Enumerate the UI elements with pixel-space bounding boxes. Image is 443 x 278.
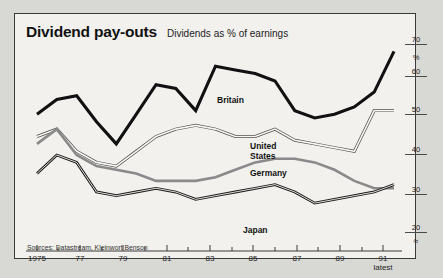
y-tick-30: 30 bbox=[405, 186, 427, 195]
y-tick-rule bbox=[405, 44, 427, 45]
chart-source: Sources: Datastream, Kleinwort Benson bbox=[27, 244, 148, 251]
screenshot-root: Dividend pay-outs Dividends as % of earn… bbox=[0, 0, 443, 278]
x-tick-91: 91 latest bbox=[373, 254, 392, 272]
y-tick-40: 40 bbox=[405, 146, 427, 155]
x-tick-85: 85 bbox=[249, 254, 258, 263]
x-tick-81: 81 bbox=[163, 254, 172, 263]
y-tick-rule bbox=[405, 154, 427, 155]
series-label-japan: Japan bbox=[243, 226, 268, 236]
y-tick-rule bbox=[405, 76, 427, 77]
x-axis-labels: 1975 77 79 81 83 85 87 89 91 latest bbox=[26, 254, 404, 276]
chart-figure: Dividend pay-outs Dividends as % of earn… bbox=[14, 13, 416, 259]
y-tick-rule bbox=[405, 114, 427, 115]
y-tick-rule bbox=[405, 194, 427, 195]
x-tick-91-year: 91 bbox=[379, 254, 388, 263]
series-label-united-states-line2: States bbox=[250, 152, 276, 162]
x-tick-87: 87 bbox=[293, 254, 302, 263]
x-tick-77: 77 bbox=[76, 254, 85, 263]
y-tick-20: 20 bbox=[405, 224, 427, 233]
chart-header: Dividend pay-outs Dividends as % of earn… bbox=[26, 23, 288, 41]
plot-area bbox=[26, 40, 402, 252]
series-label-germany: Germany bbox=[250, 169, 287, 179]
y-tick-rule bbox=[405, 232, 427, 233]
series-line-united-states-outline bbox=[37, 111, 394, 167]
y-axis-labels: 70 % 60 50 40 30 20 bbox=[405, 40, 431, 255]
line-chart-svg bbox=[26, 40, 402, 252]
series-layer bbox=[37, 51, 394, 203]
series-label-britain: Britain bbox=[217, 96, 244, 106]
x-tick-79: 79 bbox=[119, 254, 128, 263]
y-tick-50: 50 bbox=[405, 106, 427, 115]
x-tick-83: 83 bbox=[206, 254, 215, 263]
x-tick-1975: 1975 bbox=[28, 254, 46, 263]
x-tick-91-sub: latest bbox=[373, 263, 392, 272]
axis-break-icon: ≈ bbox=[405, 237, 427, 245]
chart-subtitle: Dividends as % of earnings bbox=[167, 28, 288, 39]
y-tick-60: 60 bbox=[405, 68, 427, 77]
page-title: Dividend pay-outs bbox=[26, 23, 157, 41]
y-axis-unit: % bbox=[405, 53, 427, 62]
y-tick-70: 70 bbox=[405, 36, 427, 45]
x-tick-89: 89 bbox=[336, 254, 345, 263]
